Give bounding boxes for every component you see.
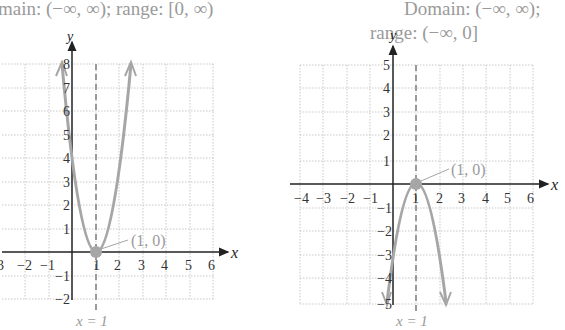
svg-text:−1: −1 [55,269,70,284]
svg-text:1: 1 [93,258,100,273]
svg-text:3: 3 [458,191,465,206]
svg-text:−5: −5 [377,297,392,312]
svg-text:6: 6 [63,104,70,119]
svg-text:−2: −2 [340,191,355,206]
left-x-axis-label: x [230,244,238,261]
svg-text:2: 2 [63,198,70,213]
left-symmetry-label: x = 1 [75,313,108,329]
svg-text:3: 3 [138,258,145,273]
svg-text:−3: −3 [316,191,331,206]
svg-text:3: 3 [0,258,4,273]
svg-text:−2: −2 [377,224,392,239]
right-vertex-leader [421,169,449,181]
svg-text:5: 5 [185,258,192,273]
left-x-ticks: 3 −2 −1 1 2 3 4 5 6 [0,258,215,273]
svg-text:−1: −1 [40,258,55,273]
svg-text:5: 5 [504,191,511,206]
left-chart: (1, 0) y x x = 1 3 −2 −1 1 2 3 4 5 6 −2 … [0,29,238,329]
svg-text:2: 2 [383,128,390,143]
svg-text:1: 1 [383,154,390,169]
svg-text:8: 8 [63,57,70,72]
svg-text:−2: −2 [17,258,32,273]
right-vertex-label: (1, 0) [451,161,486,179]
svg-text:3: 3 [383,105,390,120]
svg-text:4: 4 [482,191,489,206]
left-vertex-point [90,246,102,258]
svg-text:4: 4 [63,151,70,166]
svg-text:6: 6 [527,191,534,206]
left-y-axis-label: y [65,29,74,44]
svg-text:6: 6 [208,258,215,273]
svg-text:7: 7 [63,81,70,96]
svg-text:5: 5 [63,128,70,143]
right-x-ticks: −4 −3 −2 −1 1 2 3 4 5 6 [294,191,534,206]
svg-text:2: 2 [436,191,443,206]
svg-text:−1: −1 [377,201,392,216]
svg-text:3: 3 [63,175,70,190]
svg-text:1: 1 [63,222,70,237]
charts: (1, 0) y x x = 1 3 −2 −1 1 2 3 4 5 6 −2 … [0,0,565,330]
svg-text:4: 4 [161,258,168,273]
svg-text:−2: −2 [55,292,70,307]
left-vertex-label: (1, 0) [131,232,166,250]
svg-text:5: 5 [383,58,390,73]
left-grid [2,64,215,299]
right-chart: (1, 0) y x x = 1 −4 −3 −2 −1 1 2 3 4 5 6… [290,28,558,329]
right-y-ticks: −5 −4 −3 −2 −1 1 2 3 4 5 [377,58,392,312]
right-y-axis-label: y [388,28,397,43]
right-x-axis-label: x [550,176,558,193]
svg-text:−1: −1 [363,191,378,206]
svg-text:4: 4 [383,81,390,96]
svg-text:1: 1 [412,191,419,206]
svg-text:−3: −3 [377,248,392,263]
svg-text:−4: −4 [294,191,309,206]
right-symmetry-label: x = 1 [395,313,428,329]
right-vertex-point [410,178,422,190]
svg-text:2: 2 [114,258,121,273]
svg-text:−4: −4 [377,271,392,286]
